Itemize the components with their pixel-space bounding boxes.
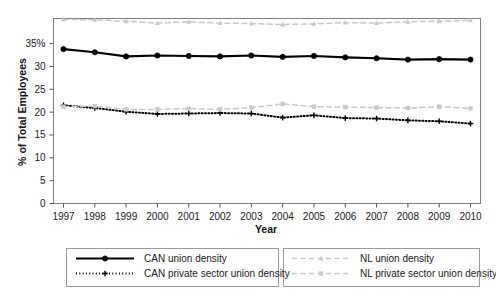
data-point-nl_private bbox=[280, 102, 284, 106]
data-point-can_union bbox=[155, 53, 160, 58]
data-point-can_union bbox=[311, 53, 316, 58]
data-point-nl_private bbox=[155, 107, 159, 111]
x-tick-label: 1999 bbox=[115, 211, 138, 222]
legend-label: NL union density bbox=[360, 253, 434, 264]
data-point-nl_private bbox=[93, 104, 97, 108]
data-point-can_union bbox=[280, 54, 285, 59]
chart-page: 05101520253035% 199719981999200020012002… bbox=[0, 0, 496, 296]
y-tick-label: 30 bbox=[34, 61, 46, 72]
data-point-nl_private bbox=[343, 105, 347, 109]
x-tick-label: 2005 bbox=[303, 211, 326, 222]
data-point-can_union bbox=[437, 57, 442, 62]
legend-label: NL private sector union density bbox=[360, 268, 496, 279]
y-axis-title: % of Total Employees bbox=[16, 58, 28, 166]
data-point-can_union bbox=[61, 47, 66, 52]
data-point-can_union bbox=[374, 56, 379, 61]
data-point-nl_private bbox=[124, 107, 128, 111]
x-axis-title: Year bbox=[255, 223, 277, 235]
data-point-nl_private bbox=[468, 106, 472, 110]
y-tick-label: 0 bbox=[40, 198, 46, 209]
x-tick-label: 2007 bbox=[365, 211, 388, 222]
legend-label: CAN private sector union density bbox=[144, 268, 290, 279]
x-axis: 1997199819992000200120022003200420052006… bbox=[52, 204, 482, 222]
x-tick-label: 2000 bbox=[146, 211, 169, 222]
data-point-can_union bbox=[186, 53, 191, 58]
data-point-can_union bbox=[249, 53, 254, 58]
legend-swatch-marker bbox=[102, 256, 107, 261]
data-point-nl_private bbox=[249, 105, 253, 109]
data-point-nl_private bbox=[312, 104, 316, 108]
y-tick-label: 25 bbox=[34, 84, 46, 95]
y-tick-label: 10 bbox=[34, 152, 46, 163]
y-tick-label: 5 bbox=[40, 175, 46, 186]
y-axis: 05101520253035% bbox=[25, 38, 53, 209]
y-tick-label: 20 bbox=[34, 107, 46, 118]
data-point-nl_private bbox=[437, 104, 441, 108]
data-point-can_union bbox=[124, 54, 129, 59]
union-density-line-chart: 05101520253035% 199719981999200020012002… bbox=[0, 0, 496, 296]
x-tick-label: 1998 bbox=[84, 211, 107, 222]
y-tick-label: 15 bbox=[34, 129, 46, 140]
legend-swatch-marker bbox=[319, 271, 323, 275]
x-tick-label: 2006 bbox=[334, 211, 357, 222]
data-point-can_union bbox=[92, 50, 97, 55]
legend-label: CAN union density bbox=[144, 253, 227, 264]
x-tick-label: 1997 bbox=[52, 211, 75, 222]
data-point-nl_private bbox=[406, 106, 410, 110]
data-point-nl_private bbox=[218, 107, 222, 111]
y-tick-label: 35% bbox=[25, 38, 45, 49]
data-point-nl_private bbox=[374, 105, 378, 109]
data-point-can_union bbox=[343, 55, 348, 60]
data-point-can_union bbox=[405, 57, 410, 62]
x-tick-label: 2010 bbox=[459, 211, 482, 222]
data-point-can_union bbox=[217, 54, 222, 59]
x-tick-label: 2004 bbox=[272, 211, 295, 222]
data-point-nl_private bbox=[61, 104, 65, 108]
x-tick-label: 2001 bbox=[178, 211, 201, 222]
data-point-can_union bbox=[468, 57, 473, 62]
data-point-nl_private bbox=[187, 106, 191, 110]
x-tick-label: 2003 bbox=[240, 211, 263, 222]
x-tick-label: 2009 bbox=[428, 211, 451, 222]
x-tick-label: 2002 bbox=[209, 211, 232, 222]
x-tick-label: 2008 bbox=[397, 211, 420, 222]
